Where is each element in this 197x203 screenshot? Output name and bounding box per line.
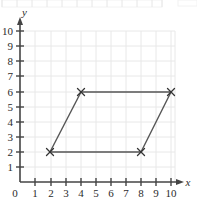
- y-axis-label: y: [21, 6, 27, 18]
- x-tick-label-1: 1: [32, 187, 38, 199]
- x-tick-label-3: 3: [63, 187, 69, 199]
- x-tick-label-7: 7: [123, 187, 129, 199]
- x-axis-arrow-icon: [176, 179, 184, 185]
- y-tick-label-7: 7: [8, 70, 14, 82]
- y-tick-label-6: 6: [8, 86, 14, 98]
- coordinate-plane-figure: 1 2 3 4 5 6 7 8 9 10 1 2 3 4 5 6 7 8 9 1…: [0, 0, 197, 203]
- top-cropped-grid-strip: [2, 0, 197, 7]
- y-tick-label-3: 3: [8, 131, 14, 143]
- y-tick-label-4: 4: [8, 116, 14, 128]
- y-axis-tick-labels: 1 2 3 4 5 6 7 8 9 10: [2, 25, 14, 173]
- y-tick-label-8: 8: [8, 55, 14, 67]
- x-tick-label-5: 5: [93, 187, 99, 199]
- x-axis-tick-labels: 1 2 3 4 5 6 7 8 9 10: [32, 187, 177, 199]
- y-tick-label-5: 5: [8, 101, 14, 113]
- y-axis: [17, 17, 23, 182]
- origin-label: 0: [12, 187, 18, 199]
- x-tick-label-6: 6: [108, 187, 114, 199]
- coordinate-plane-svg: 1 2 3 4 5 6 7 8 9 10 1 2 3 4 5 6 7 8 9 1…: [0, 0, 197, 203]
- y-axis-arrow-icon: [17, 17, 23, 25]
- y-tick-label-10: 10: [2, 25, 14, 37]
- gridlines-horizontal: [20, 31, 175, 167]
- y-tick-label-2: 2: [8, 146, 14, 158]
- x-tick-label-2: 2: [48, 187, 54, 199]
- x-tick-label-10: 10: [166, 187, 178, 199]
- x-tick-label-4: 4: [78, 187, 84, 199]
- y-tick-label-9: 9: [8, 40, 14, 52]
- y-tick-label-1: 1: [8, 161, 14, 173]
- x-tick-label-9: 9: [153, 187, 159, 199]
- x-axis-label: x: [185, 176, 191, 188]
- x-tick-label-8: 8: [138, 187, 144, 199]
- x-axis: [20, 179, 184, 185]
